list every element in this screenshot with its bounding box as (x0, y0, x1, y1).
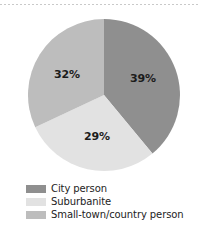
legend-label-small-town-country-person: Small-town/country person (51, 209, 184, 221)
legend-swatch-small-town-country-person (26, 211, 46, 219)
chart-legend: City person Suburbanite Small-town/count… (26, 183, 196, 222)
pie-label-small-town-country-person: 32% (54, 68, 80, 81)
pie-label-suburbanite: 29% (84, 130, 110, 143)
legend-swatch-suburbanite (26, 198, 46, 206)
pie-chart (28, 19, 180, 171)
pie-chart-svg (28, 19, 180, 171)
legend-item-small-town-country-person[interactable]: Small-town/country person (26, 209, 196, 221)
legend-label-city-person: City person (51, 183, 107, 195)
top-dotted-rule (0, 4, 199, 5)
pie-label-city-person: 39% (130, 72, 156, 85)
legend-swatch-city-person (26, 185, 46, 193)
legend-label-suburbanite: Suburbanite (51, 196, 111, 208)
legend-item-city-person[interactable]: City person (26, 183, 196, 195)
legend-item-suburbanite[interactable]: Suburbanite (26, 196, 196, 208)
